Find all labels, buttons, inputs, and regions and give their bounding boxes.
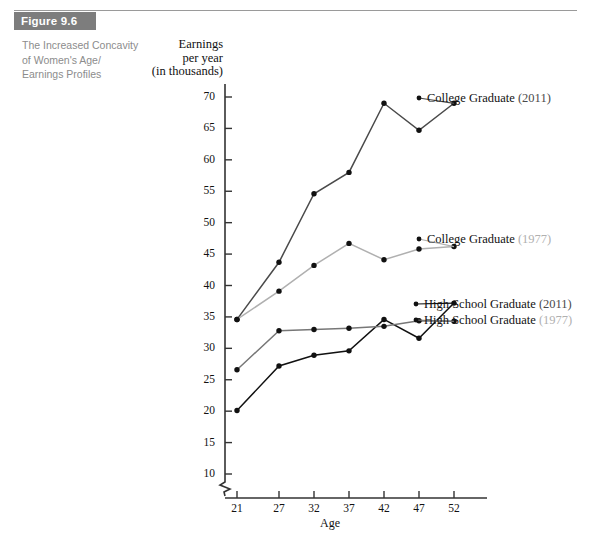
chart-plot-area xyxy=(0,0,591,536)
x-axis-tick-label: 47 xyxy=(406,502,432,514)
y-axis-tick-label: 40 xyxy=(189,279,215,291)
leader-high-school-graduate-2011-marker xyxy=(414,302,419,307)
data-point-college-graduate-1977-32 xyxy=(311,263,316,268)
legend-year: (2011) xyxy=(518,91,551,105)
x-axis-tick-label: 32 xyxy=(301,502,327,514)
y-axis-tick-label: 10 xyxy=(189,467,215,479)
leader-college-graduate-2011-marker xyxy=(417,96,422,101)
leader-high-school-graduate-1977-marker xyxy=(414,318,419,323)
data-point-college-graduate-1977-27 xyxy=(276,288,281,293)
x-axis-tick-label: 42 xyxy=(371,502,397,514)
legend-text: College Graduate xyxy=(427,232,518,246)
y-axis-tick-label: 30 xyxy=(189,341,215,353)
data-point-high-school-graduate-2011-47 xyxy=(416,336,421,341)
legend-year: (1977) xyxy=(539,313,572,327)
data-point-high-school-graduate-2011-32 xyxy=(311,353,316,358)
y-axis-tick-label: 70 xyxy=(189,90,215,102)
data-point-high-school-graduate-1977-32 xyxy=(311,327,316,332)
legend-label-college-graduate-2011: College Graduate (2011) xyxy=(427,91,551,106)
y-axis-tick-label: 55 xyxy=(189,184,215,196)
y-axis-tick-label: 60 xyxy=(189,153,215,165)
data-point-college-graduate-1977-42 xyxy=(381,257,386,262)
data-point-high-school-graduate-2011-37 xyxy=(346,348,351,353)
y-axis-tick-label: 35 xyxy=(189,310,215,322)
x-axis-title: Age xyxy=(300,516,360,531)
legend-year: (1977) xyxy=(518,232,551,246)
leader-college-graduate-1977-marker xyxy=(417,237,422,242)
y-axis-tick-label: 50 xyxy=(189,216,215,228)
data-point-high-school-graduate-1977-42 xyxy=(381,324,386,329)
x-axis-tick-label: 52 xyxy=(441,502,467,514)
legend-label-high-school-graduate-1977: High School Graduate (1977) xyxy=(424,313,572,328)
series-line-college-graduate-1977 xyxy=(237,243,454,319)
data-point-college-graduate-1977-47 xyxy=(416,246,421,251)
data-point-college-graduate-2011-32 xyxy=(311,191,316,196)
x-axis-tick-label: 27 xyxy=(266,502,292,514)
series-line-high-school-graduate-1977 xyxy=(237,321,454,370)
data-point-high-school-graduate-2011-42 xyxy=(381,317,386,322)
data-point-college-graduate-2011-27 xyxy=(276,260,281,265)
data-point-high-school-graduate-1977-37 xyxy=(346,326,351,331)
data-point-college-graduate-2011-37 xyxy=(346,170,351,175)
y-axis-tick-label: 20 xyxy=(189,404,215,416)
legend-text: College Graduate xyxy=(427,91,518,105)
series-line-high-school-graduate-2011 xyxy=(237,303,454,410)
y-axis-tick-label: 65 xyxy=(189,121,215,133)
legend-text: High School Graduate xyxy=(424,297,539,311)
data-point-high-school-graduate-2011-21 xyxy=(234,408,239,413)
y-axis-tick-label: 15 xyxy=(189,436,215,448)
series-line-college-graduate-2011 xyxy=(237,103,454,319)
y-axis-tick-label: 25 xyxy=(189,373,215,385)
data-point-college-graduate-1977-21 xyxy=(234,317,239,322)
legend-year: (2011) xyxy=(539,297,572,311)
data-point-high-school-graduate-2011-27 xyxy=(276,363,281,368)
data-point-college-graduate-2011-47 xyxy=(416,128,421,133)
y-axis-tick-label: 45 xyxy=(189,247,215,259)
legend-label-college-graduate-1977: College Graduate (1977) xyxy=(427,232,551,247)
data-point-college-graduate-2011-42 xyxy=(381,101,386,106)
axis-break-symbol xyxy=(220,478,230,496)
data-point-high-school-graduate-1977-21 xyxy=(234,367,239,372)
legend-label-high-school-graduate-2011: High School Graduate (2011) xyxy=(424,297,572,312)
x-axis-tick-label: 21 xyxy=(224,502,250,514)
data-point-high-school-graduate-1977-27 xyxy=(276,328,281,333)
legend-text: High School Graduate xyxy=(424,313,539,327)
data-point-college-graduate-1977-37 xyxy=(346,241,351,246)
x-axis-tick-label: 37 xyxy=(336,502,362,514)
